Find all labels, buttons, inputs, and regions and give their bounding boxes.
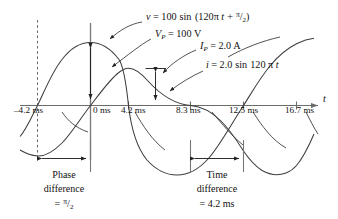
tick-label-12-5ms: 12.5 ms — [229, 105, 259, 115]
phase-difference-line1: Phase — [52, 169, 76, 180]
current-omega: 120 π — [250, 59, 273, 70]
tick-label-8-3ms: 8.3 ms — [176, 105, 201, 115]
tick-label-minus-4-2ms: –4.2 ms — [13, 105, 44, 115]
phase-difference-line2: difference — [44, 183, 85, 194]
ip-subscript: P — [202, 45, 208, 53]
current-func: sin — [235, 59, 247, 70]
vp-value: 100 V — [176, 28, 202, 39]
current-equation-label: i=2.0sin120 πt — [206, 59, 280, 70]
vp-equals: = — [168, 28, 174, 39]
tick-label-0ms: 0 ms — [93, 105, 111, 115]
waveform-svg: v=100sin(120πt+π/2) VP=100 V IP=2.0 A i=… — [0, 0, 338, 219]
voltage-func: sin — [180, 11, 192, 22]
ip-equals: = — [210, 40, 216, 51]
current-symbol: i — [206, 59, 209, 70]
current-amplitude: 2.0 — [220, 59, 233, 70]
phase-value-denominator: 2 — [70, 203, 74, 211]
phase-eq-sign: = — [55, 198, 61, 209]
ip-value: 2.0 A — [218, 40, 241, 51]
time-difference-line2: difference — [197, 183, 238, 194]
tick-label-4-2ms: 4.2 ms — [121, 105, 146, 115]
voltage-close-paren: ) — [246, 11, 249, 23]
vp-subscript: P — [160, 33, 166, 41]
time-difference-value: = 4.2 ms — [200, 198, 235, 209]
waveform-figure: v=100sin(120πt+π/2) VP=100 V IP=2.0 A i=… — [0, 0, 338, 219]
current-equals: = — [211, 59, 217, 70]
voltage-equals: = — [153, 11, 159, 22]
time-difference-line1: Time — [207, 169, 228, 180]
voltage-plus: + — [227, 11, 233, 22]
voltage-symbol: v — [146, 11, 151, 22]
tick-label-16-7ms: 16.7 ms — [285, 105, 315, 115]
voltage-omega: 120π — [198, 11, 218, 22]
voltage-amplitude: 100 — [161, 11, 176, 22]
